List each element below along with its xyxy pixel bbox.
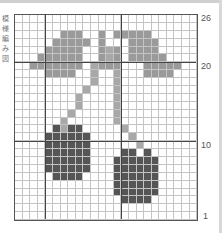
right-border [219, 0, 222, 233]
stitch-cell-fruit [53, 149, 61, 157]
stitch-cell [190, 157, 198, 165]
stitch-cell [99, 102, 107, 110]
stitch-cell [68, 15, 76, 23]
stitch-cell-leaf [45, 70, 53, 78]
stitch-cell-leaf [76, 31, 84, 39]
chart-grid [14, 14, 198, 221]
stitch-cell [190, 47, 198, 55]
stitch-cell [68, 86, 76, 94]
stitch-cell [76, 212, 84, 220]
stitch-cell-leaf [68, 39, 76, 47]
stitch-cell-stem [91, 62, 99, 70]
stitch-cell [99, 110, 107, 118]
stitch-cell-fruit [152, 189, 160, 197]
stitch-cell [121, 15, 129, 23]
stitch-cell-fruit [68, 149, 76, 157]
stitch-cell-fruit [152, 157, 160, 165]
stitch-cell [182, 86, 190, 94]
stitch-cell-fruit [68, 165, 76, 173]
stitch-cell-stem [68, 110, 76, 118]
stitch-cell [68, 204, 76, 212]
stitch-cell [190, 212, 198, 220]
stitch-cell [99, 23, 107, 31]
stitch-cell [167, 173, 175, 181]
stitch-cell-fruit [152, 173, 160, 181]
stitch-cell [15, 196, 23, 204]
stitch-cell [159, 39, 167, 47]
stitch-cell [15, 62, 23, 70]
stitch-cell [61, 23, 69, 31]
stitch-cell [61, 212, 69, 220]
stitch-cell [167, 149, 175, 157]
stitch-cell [23, 102, 31, 110]
stitch-cell-leaf [68, 62, 76, 70]
stitch-cell-leaf [45, 47, 53, 55]
stitch-cell [76, 15, 84, 23]
stitch-cell [53, 110, 61, 118]
stitch-cell-fruit [45, 165, 53, 173]
stitch-cell [152, 118, 160, 126]
stitch-cell [91, 204, 99, 212]
stitch-cell [152, 78, 160, 86]
stitch-cell [152, 149, 160, 157]
stitch-cell [167, 204, 175, 212]
stitch-cell [99, 78, 107, 86]
stitch-cell [144, 23, 152, 31]
stitch-cell [129, 110, 137, 118]
stitch-cell [30, 94, 38, 102]
stitch-cell [30, 47, 38, 55]
stitch-cell [190, 204, 198, 212]
stitch-cell [159, 15, 167, 23]
stitch-cell [91, 31, 99, 39]
heavy-gridline-col-14 [121, 14, 122, 219]
stitch-cell [152, 125, 160, 133]
stitch-cell [182, 47, 190, 55]
stitch-cell [129, 78, 137, 86]
stitch-cell [137, 23, 145, 31]
stitch-cell [61, 86, 69, 94]
stitch-cell [83, 125, 91, 133]
stitch-cell-leaf [30, 62, 38, 70]
stitch-cell-leaf [61, 70, 69, 78]
stitch-cell-leaf [167, 62, 175, 70]
stitch-cell [152, 110, 160, 118]
stitch-cell-leaf [99, 47, 107, 55]
stitch-cell [129, 23, 137, 31]
stitch-cell [152, 204, 160, 212]
stitch-cell [99, 204, 107, 212]
stitch-cell [137, 110, 145, 118]
stitch-cell [91, 141, 99, 149]
stitch-cell [106, 102, 114, 110]
stitch-cell [159, 110, 167, 118]
stitch-cell [174, 39, 182, 47]
stitch-cell-leaf [152, 62, 160, 70]
stitch-cell [23, 125, 31, 133]
stitch-cell [159, 31, 167, 39]
stitch-cell [15, 23, 23, 31]
stitch-cell-fruit [83, 149, 91, 157]
stitch-cell-fruit [121, 173, 129, 181]
stitch-cell [15, 70, 23, 78]
stitch-cell-leaf [99, 31, 107, 39]
stitch-cell [174, 86, 182, 94]
stitch-cell-fruit [129, 189, 137, 197]
stitch-cell [137, 125, 145, 133]
stitch-cell [137, 78, 145, 86]
stitch-cell [30, 189, 38, 197]
stitch-cell-leaf [61, 39, 69, 47]
stitch-cell-leaf [76, 47, 84, 55]
stitch-cell [83, 47, 91, 55]
stitch-cell [83, 212, 91, 220]
stitch-cell [190, 196, 198, 204]
stitch-cell [106, 196, 114, 204]
stitch-cell [91, 118, 99, 126]
stitch-cell-fruit [68, 173, 76, 181]
stitch-cell [144, 125, 152, 133]
stitch-cell [159, 189, 167, 197]
stitch-cell [137, 118, 145, 126]
stitch-cell [174, 212, 182, 220]
side-caption: 模様編み図 [2, 14, 10, 64]
stitch-cell [68, 181, 76, 189]
stitch-cell-leaf [167, 70, 175, 78]
stitch-cell [45, 39, 53, 47]
